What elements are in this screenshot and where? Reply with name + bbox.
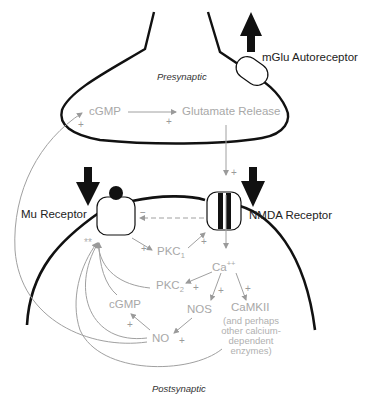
nmda-receptor-label: NMDA Receptor [249, 210, 332, 222]
plus-sign: + [127, 320, 133, 330]
presynaptic-label: Presynaptic [157, 72, 207, 82]
mu-receptor-label: Mu Receptor [21, 209, 87, 221]
mu-arrow-icon [76, 167, 100, 206]
camkii-note: (and perhaps other calcium- dependent en… [219, 316, 283, 356]
camkii-note-line: enzymes) [219, 346, 283, 356]
glutamate-release-node: Glutamate Release [182, 106, 280, 118]
mglu-autoreceptor-label: mGlu Autoreceptor [262, 52, 358, 64]
plus-sign: + [179, 336, 185, 346]
cgmp-presynaptic-node: cGMP [89, 106, 121, 118]
plus-sign: + [245, 284, 251, 294]
plus-sign: + [231, 168, 237, 178]
cgmp-postsynaptic-node: cGMP [109, 299, 141, 311]
plus-sign: + [193, 283, 199, 293]
mglu-arrow-icon [240, 12, 262, 52]
no-node: NO [152, 333, 169, 345]
calcium-node: Ca++ [212, 260, 235, 273]
plus-sign: + [218, 286, 224, 296]
plus-sign: + [141, 244, 147, 254]
plus-sign: + [201, 237, 207, 247]
plus-sign: + [78, 120, 84, 130]
camkii-node: CaMKII [231, 302, 269, 314]
pkc2-node: PKC2 [156, 280, 184, 294]
pkc1-node: PKC1 [157, 246, 185, 260]
double-star-marker: ** [84, 238, 92, 248]
minus-sign: − [140, 208, 146, 218]
nmda-channel-bar-right [226, 193, 231, 229]
nos-node: NOS [187, 304, 212, 316]
mu-receptor-shape [97, 197, 135, 235]
nmda-channel-bar-left [218, 193, 223, 229]
nmda-receptor-shape [207, 192, 241, 230]
plus-sign: + [166, 117, 172, 127]
postsynaptic-label: Postsynaptic [152, 384, 206, 394]
mu-ligand-icon [109, 186, 123, 200]
nmda-arrow-icon [241, 167, 265, 207]
